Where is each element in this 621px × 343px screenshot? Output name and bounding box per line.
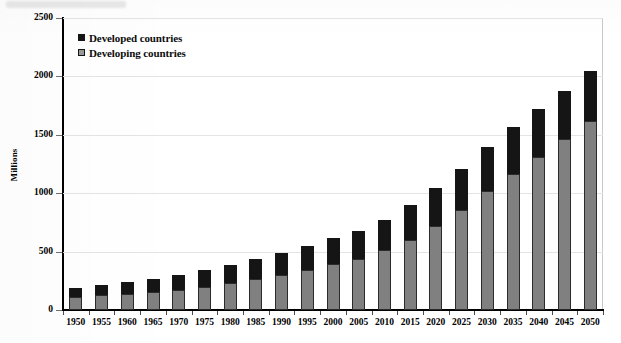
x-axis-tick [346, 311, 347, 315]
bar-segment-developing [224, 283, 237, 310]
stacked-bar-chart: 05001000150020002500 Millions 1950195519… [0, 0, 621, 343]
bar-segment-developing [455, 210, 468, 310]
bar-1990 [275, 253, 288, 310]
y-axis-tick [56, 76, 62, 77]
bar-1995 [301, 246, 314, 310]
y-axis-label: 500 [9, 247, 53, 257]
x-axis-tick [320, 311, 321, 315]
bar-1955 [95, 285, 108, 310]
x-axis-tick [397, 311, 398, 315]
bar-segment-developed [147, 279, 160, 292]
bar-2020 [429, 188, 442, 310]
y-axis-tick [56, 193, 62, 194]
gridline [63, 135, 603, 136]
x-axis-tick [114, 311, 115, 315]
y-axis-label: 0 [9, 305, 53, 315]
bar-1980 [224, 265, 237, 310]
x-axis-tick [269, 311, 270, 315]
bar-segment-developed [327, 238, 340, 264]
y-axis-tick [56, 18, 62, 19]
y-axis-line [62, 17, 64, 311]
x-axis-tick [372, 311, 373, 315]
x-axis-tick [217, 311, 218, 315]
bar-segment-developing [558, 139, 571, 310]
x-axis-tick [552, 311, 553, 315]
bar-2005 [352, 231, 365, 310]
bar-segment-developed [121, 282, 134, 294]
bar-2045 [558, 91, 571, 310]
bar-1975 [198, 270, 211, 310]
bar-2025 [455, 169, 468, 310]
bar-1965 [147, 279, 160, 310]
bar-segment-developed [378, 220, 391, 250]
y-axis-label: 2000 [9, 71, 53, 81]
bar-segment-developing [147, 292, 160, 310]
bar-segment-developed [481, 147, 494, 191]
legend-item-developing: Developing countries [78, 45, 186, 60]
bar-segment-developing [352, 259, 365, 310]
bar-segment-developed [352, 231, 365, 259]
bar-segment-developing [95, 295, 108, 310]
x-axis-tick [423, 311, 424, 315]
bar-2030 [481, 147, 494, 310]
legend-label-developing: Developing countries [89, 47, 186, 59]
x-axis-tick [449, 311, 450, 315]
bar-segment-developed [429, 188, 442, 227]
scan-artifact [6, 1, 126, 8]
x-axis-tick [166, 311, 167, 315]
legend-label-developed: Developed countries [89, 32, 182, 44]
y-axis-tick [56, 252, 62, 253]
bar-2000 [327, 238, 340, 310]
x-axis-tick [603, 311, 604, 315]
bar-segment-developed [198, 270, 211, 286]
bar-1985 [249, 259, 262, 310]
x-axis-tick [526, 311, 527, 315]
bar-segment-developing [172, 290, 185, 310]
y-axis-title: Millions [9, 125, 19, 205]
bar-segment-developed [95, 285, 108, 296]
gridline [63, 76, 603, 77]
bar-segment-developing [275, 275, 288, 310]
bar-segment-developing [198, 287, 211, 310]
bar-segment-developed [558, 91, 571, 139]
x-axis-tick [243, 311, 244, 315]
x-axis-tick [140, 311, 141, 315]
x-axis-tick [89, 311, 90, 315]
bar-1970 [172, 275, 185, 310]
bar-segment-developing [301, 270, 314, 310]
bar-1950 [69, 288, 82, 310]
x-axis-label-2050: 2050 [570, 318, 610, 328]
legend-swatch-developing-icon [78, 49, 85, 56]
gridline [63, 193, 603, 194]
bar-segment-developing [507, 174, 520, 310]
x-axis-tick [500, 311, 501, 315]
x-axis-tick [63, 311, 64, 315]
bar-2015 [404, 205, 417, 310]
bar-segment-developed [69, 288, 82, 297]
legend: Developed countries Developing countries [78, 30, 186, 60]
legend-swatch-developed-icon [78, 34, 85, 41]
bar-2010 [378, 220, 391, 310]
y-axis-tick [56, 310, 62, 311]
bar-segment-developing [481, 191, 494, 310]
gridline [63, 18, 603, 19]
bar-segment-developed [404, 205, 417, 240]
bar-segment-developed [507, 127, 520, 174]
x-axis-tick [577, 311, 578, 315]
bar-segment-developing [584, 121, 597, 310]
bar-1960 [121, 282, 134, 310]
bar-segment-developing [69, 297, 82, 310]
bar-segment-developing [121, 294, 134, 310]
bar-segment-developed [224, 265, 237, 283]
bar-segment-developing [249, 279, 262, 310]
bar-segment-developed [275, 253, 288, 275]
bar-segment-developed [532, 109, 545, 157]
bar-2050 [584, 71, 597, 310]
bar-segment-developed [249, 259, 262, 279]
bar-segment-developing [532, 157, 545, 310]
bar-2040 [532, 109, 545, 310]
bar-segment-developed [455, 169, 468, 210]
bar-segment-developing [404, 240, 417, 310]
x-axis-tick [294, 311, 295, 315]
bar-segment-developed [584, 71, 597, 122]
